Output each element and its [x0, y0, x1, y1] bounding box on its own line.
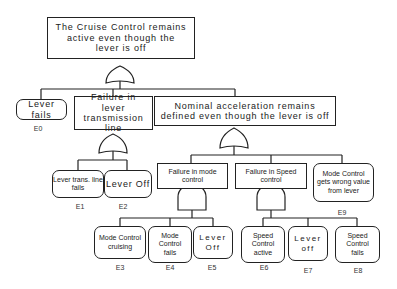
- or-gate-icon: [99, 134, 127, 153]
- event-id-e1: E1: [70, 203, 90, 210]
- event-id-e3: E3: [110, 264, 130, 271]
- event-id-e2: E2: [113, 203, 133, 210]
- event-id-e6: E6: [254, 264, 274, 271]
- basic-event-e5: Lever Off: [193, 226, 233, 259]
- event-id-e5: E5: [202, 264, 222, 271]
- mode-failure-box: Failure in mode control: [157, 163, 228, 189]
- basic-event-e9: Mode Control gets wrong value from lever: [313, 163, 374, 202]
- top-event-box: The Cruise Control remains active even t…: [47, 17, 195, 59]
- basic-event-e1: Lever trans. line fails: [52, 170, 104, 198]
- acceleration-box: Nominal acceleration remains defined eve…: [154, 96, 336, 126]
- speed-failure-box: Failure in Speed control: [235, 163, 307, 189]
- event-id-e7: E7: [298, 267, 318, 274]
- basic-event-e0: Lever fails: [16, 99, 67, 120]
- basic-event-e6: Speed Control active: [241, 226, 285, 263]
- or-gate-icon: [106, 66, 134, 83]
- basic-event-e2: Lever Off: [104, 170, 152, 198]
- event-id-e8: E8: [348, 267, 368, 274]
- event-id-e0: E0: [28, 125, 48, 132]
- basic-event-e7: Lever off: [288, 226, 328, 261]
- transmission-failure-box: Failure in lever transmission line: [74, 96, 153, 130]
- or-gate-icon: [220, 128, 248, 148]
- event-id-e4: E4: [160, 264, 180, 271]
- basic-event-e3: Mode Control cruising: [94, 226, 146, 259]
- basic-event-e8: Speed Control fails: [335, 226, 380, 263]
- basic-event-e4: Mode Control fails: [148, 226, 192, 263]
- event-id-e9: E9: [332, 209, 352, 216]
